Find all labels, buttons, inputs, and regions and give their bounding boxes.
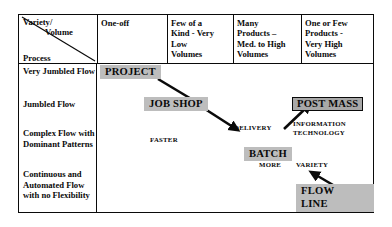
matrix-body: Very Jumbled Flow Jumbled Flow Complex F… — [19, 64, 373, 212]
product-process-matrix-page: Variety/ Volume Process One-off Few of a… — [0, 0, 392, 227]
column-header-many-products: ManyProducts –Med. to HighVolumes — [233, 15, 301, 63]
corner-process-label: Process — [23, 53, 51, 63]
process-tag-flow-line[interactable]: FLOWLINE — [296, 184, 374, 212]
process-tag-job-shop[interactable]: JOB SHOP — [144, 97, 208, 111]
process-tag-post-mass[interactable]: POST MASS — [292, 97, 363, 111]
corner-volume-label: Volume — [45, 27, 73, 37]
matrix-plot-area: PROJECT JOB SHOP POST MASS BATCH FLOWLIN… — [97, 64, 373, 212]
product-process-matrix: Variety/ Volume Process One-off Few of a… — [18, 14, 374, 213]
column-header-one-or-few-products: One or FewProducts -Very HighVolumes — [301, 15, 372, 63]
matrix-corner-cell: Variety/ Volume Process — [19, 15, 97, 64]
arrow-job-shop-to-delivery — [205, 109, 233, 127]
row-header-complex-flow: Complex Flow with Dominant Patterns — [23, 128, 95, 149]
annotation-faster: FASTER — [150, 136, 178, 144]
column-header-one-off: One-off — [97, 15, 167, 63]
annotation-information-technology: INFORMATIONTECHNOLOGY — [293, 120, 346, 137]
annotation-variety: VARIETY — [296, 161, 328, 169]
column-header-few-of-a-kind: Few of aKind - VeryLowVolumes — [167, 15, 233, 63]
row-header-very-jumbled-flow: Very Jumbled Flow — [23, 66, 95, 87]
matrix-row-label-column: Very Jumbled Flow Jumbled Flow Complex F… — [19, 64, 97, 212]
corner-variety-label: Variety/ — [23, 17, 52, 27]
process-tag-batch[interactable]: BATCH — [244, 147, 292, 161]
process-tag-project[interactable]: PROJECT — [100, 65, 161, 79]
row-header-jumbled-flow: Jumbled Flow — [23, 99, 95, 110]
annotation-delivery: DELIVERY — [234, 124, 272, 132]
annotation-more: MORE — [259, 161, 281, 169]
row-header-continuous-flow: Continuous and Automated Flow with no Fl… — [23, 169, 95, 201]
matrix-header-row: Variety/ Volume Process One-off Few of a… — [19, 15, 373, 64]
